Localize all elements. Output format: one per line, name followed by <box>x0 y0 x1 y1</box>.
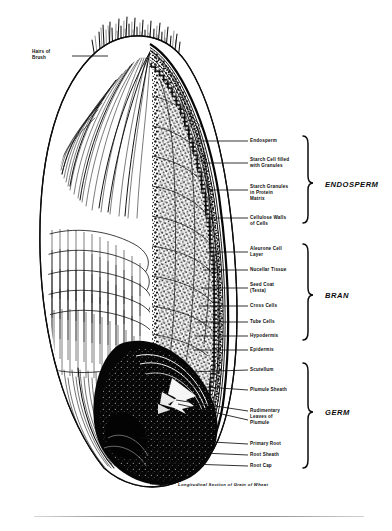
footer-divider <box>34 516 364 517</box>
callout-tube-cells: Tube Cells <box>250 319 275 325</box>
group-label-germ: GERM <box>325 408 350 417</box>
callout-hairs-of-brush: Hairs of Brush <box>32 49 50 61</box>
callout-seed-coat-testa: Seed Coat (Testa) <box>250 282 274 294</box>
callout-aleurone-cell-layer: Aleurone Cell Layer <box>250 246 282 258</box>
callout-cross-cells: Cross Cells <box>250 303 277 309</box>
callout-root-sheath: Root Sheath <box>250 452 279 458</box>
callout-nucellar-tissue: Nucellar Tissue <box>250 267 287 273</box>
callout-starch-granules-in-protein-matrix: Starch Granules in Protein Matrix <box>250 184 288 202</box>
callout-cellulose-walls-of-cells: Cellulose Walls of Cells <box>250 215 286 227</box>
figure-caption: Longitudinal Section of Grain of Wheat <box>178 482 268 487</box>
callout-epidermis: Epidermis <box>250 347 274 353</box>
callout-endosperm: Endosperm <box>250 138 277 144</box>
callout-primary-root: Primary Root <box>250 441 281 447</box>
callout-plumule-sheath: Plumule Sheath <box>250 387 287 393</box>
group-label-endosperm: ENDOSPERM <box>325 180 378 189</box>
callout-hypodermis: Hypodermis <box>250 333 278 339</box>
callout-scutellum: Scutellum <box>250 367 274 373</box>
callout-rudimentary-leaves-of-plumule: Rudimentary Leaves of Plumule <box>250 408 280 426</box>
figure-page: Hairs of Brush Endosperm Starch Cell fil… <box>0 0 392 531</box>
wheat-grain-diagram <box>0 0 392 531</box>
callout-starch-cell-filled-with-granules: Starch Cell filled with Granules <box>250 157 289 169</box>
group-label-bran: BRAN <box>325 291 349 300</box>
callout-root-cap: Root Cap <box>250 463 272 469</box>
